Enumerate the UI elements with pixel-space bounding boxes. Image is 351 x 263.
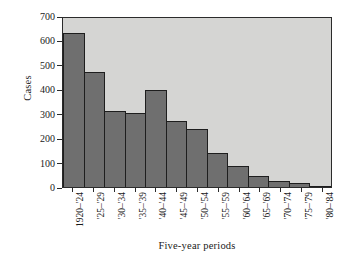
y-tick-label: 700 [40,12,57,22]
y-tick-label: 0 [50,183,57,193]
plot-area [62,17,332,188]
x-axis-tick-labels: 1920–'24'25–'29'30–'34'35–'39'40–'44'45–… [62,192,332,236]
x-label-cell-30-34: '30–'34 [104,192,125,236]
bar-75-79 [289,183,311,187]
bar-40-44 [145,90,167,187]
x-label-cell-1920-24: 1920–'24 [62,192,83,236]
x-label-cell-35-39: '35–'39 [124,192,145,236]
x-axis-title: Five-year periods [62,240,332,251]
bar-65-69 [248,176,270,187]
bar-70-74 [268,181,290,187]
histogram-figure: Cases 0100200300400500600700 1920–'24'25… [0,0,351,263]
x-label-cell-60-64: '60–'64 [228,192,249,236]
x-label-cell-70-74: '70–'74 [270,192,291,236]
y-tick-label: 400 [40,85,57,95]
y-tick-label: 600 [40,36,57,46]
x-label-cell-80-84: '80–'84 [311,192,332,236]
y-tick-label: 100 [40,159,57,169]
bar-35-39 [125,113,147,187]
bar-1920-24 [63,33,85,188]
bar-50-54 [186,129,208,187]
bar-45-49 [166,121,188,187]
bar-25-29 [84,72,106,187]
x-label-cell-75-79: '75–'79 [290,192,311,236]
y-tick-label: 200 [40,134,57,144]
bar-80-84 [309,186,331,187]
x-label-cell-55-59: '55–'59 [207,192,228,236]
y-tick-label: 300 [40,110,57,120]
x-label-cell-50-54: '50–'54 [187,192,208,236]
x-tick-label: '80–'84 [326,192,336,219]
y-tick-label: 500 [40,61,57,71]
bar-55-59 [207,153,229,187]
bar-30-34 [104,111,126,187]
x-label-cell-65-69: '65–'69 [249,192,270,236]
x-label-cell-40-44: '40–'44 [145,192,166,236]
x-label-cell-25-29: '25–'29 [83,192,104,236]
bar-series [63,18,331,187]
bar-60-64 [227,166,249,187]
y-axis-ticks: 0100200300400500600700 [0,17,62,188]
x-label-cell-45-49: '45–'49 [166,192,187,236]
